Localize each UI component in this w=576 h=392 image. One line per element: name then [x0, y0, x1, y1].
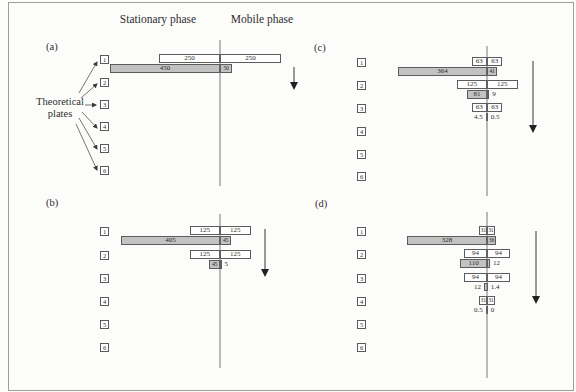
plate-box: 6: [357, 172, 366, 181]
tiny-stationary-mobile-bar: [486, 306, 488, 314]
plate-box: 6: [357, 343, 366, 352]
bar-segment-stationary: 125: [457, 80, 488, 89]
bar-segment-stationary: 81: [467, 90, 487, 99]
plate-box: 1: [357, 227, 366, 236]
bar-segment-mobile: 63: [487, 103, 502, 112]
bar-segment-stationary: 45: [209, 260, 220, 269]
bar-segment-mobile: 36: [487, 236, 496, 245]
bar-segment-mobile: 125: [487, 80, 518, 89]
bar-mobile-value: 9: [492, 90, 496, 99]
plate-box: 3: [357, 274, 366, 283]
bar-segment-mobile: 94: [487, 249, 510, 258]
bar-segment-stationary: 364: [398, 67, 487, 76]
bar-stationary-value: 4.5: [452, 113, 483, 122]
bar-segment-stationary: 125: [190, 250, 221, 259]
theoretical-plates-label: Theoretical plates: [27, 96, 93, 119]
theoretical-plates-line1: Theoretical: [36, 96, 84, 107]
theoretical-plates-line2: plates: [48, 108, 73, 119]
bar-segment-stationary: 94: [464, 249, 487, 258]
bar-segment-stationary: 31: [479, 296, 487, 305]
bar-segment-mobile: 31: [487, 226, 495, 235]
bar-segment-mobile: [487, 259, 490, 268]
plate-box: 4: [100, 122, 109, 131]
bar-segment-mobile: 125: [220, 250, 251, 259]
bar-mobile-value: 0: [491, 306, 495, 315]
bar-segment-stationary: 328: [407, 236, 487, 245]
bar-segment-stationary: 450: [110, 64, 220, 73]
bar-segment-mobile: [487, 90, 489, 99]
plate-box: 2: [100, 251, 109, 260]
plate-box: 4: [357, 297, 366, 306]
plate-box: 2: [357, 81, 366, 90]
bar-segment-mobile: 45: [220, 236, 231, 245]
bar-segment-stationary: 250: [159, 54, 220, 63]
bar-stationary-value: 12: [450, 283, 481, 292]
panel-label-b: (b): [46, 197, 58, 208]
bar-segment-stationary: 405: [121, 236, 220, 245]
plate-box: 5: [357, 150, 366, 159]
bar-mobile-value: 0.5: [491, 113, 500, 122]
plate-box: 1: [357, 58, 366, 67]
plate-box: 4: [357, 127, 366, 136]
tiny-stationary-mobile-bar: [484, 283, 488, 291]
bar-segment-mobile: 41: [487, 67, 497, 76]
plate-box: 5: [100, 144, 109, 153]
bar-segment-mobile: 31: [487, 296, 495, 305]
plate-box: 5: [357, 320, 366, 329]
bar-segment-stationary: 63: [472, 103, 487, 112]
plate-box: 1: [100, 227, 109, 236]
plate-box: 2: [100, 78, 109, 87]
bar-segment-mobile: 250: [220, 54, 281, 63]
plate-box: 3: [100, 274, 109, 283]
plate-box: 4: [100, 297, 109, 306]
mobile-phase-header: Mobile phase: [231, 13, 293, 25]
plate-box: 2: [357, 250, 366, 259]
panel-label-d: (d): [315, 198, 327, 209]
plate-box: 6: [100, 166, 109, 175]
plate-box: 5: [100, 320, 109, 329]
tiny-stationary-mobile-bar: [486, 113, 488, 121]
bar-segment-stationary: 31: [479, 226, 487, 235]
bar-segment-stationary: 94: [464, 273, 487, 282]
bar-segment-stationary: 125: [190, 226, 221, 235]
bar-segment-stationary: 110: [460, 259, 487, 268]
panel-label-a: (a): [46, 41, 58, 52]
stationary-phase-header: Stationary phase: [120, 13, 196, 25]
bar-segment-mobile: [220, 260, 222, 269]
bar-mobile-value: 12: [493, 259, 500, 268]
panel-label-c: (c): [314, 42, 326, 53]
bar-mobile-value: 5: [225, 260, 229, 269]
bar-segment-mobile: 50: [220, 64, 232, 73]
plate-box: 6: [100, 343, 109, 352]
bar-mobile-value: 1.4: [491, 283, 500, 292]
bar-stationary-value: 0.5: [452, 306, 483, 315]
bar-segment-mobile: 125: [220, 226, 251, 235]
bar-segment-mobile: 94: [487, 273, 510, 282]
bar-segment-mobile: 63: [487, 57, 502, 66]
plate-box: 3: [100, 100, 109, 109]
plate-box: 3: [357, 104, 366, 113]
plate-box: 1: [100, 55, 109, 64]
bar-segment-stationary: 63: [472, 57, 487, 66]
chromatography-theoretical-plates-figure: Stationary phase Mobile phase Theoretica…: [0, 0, 576, 392]
